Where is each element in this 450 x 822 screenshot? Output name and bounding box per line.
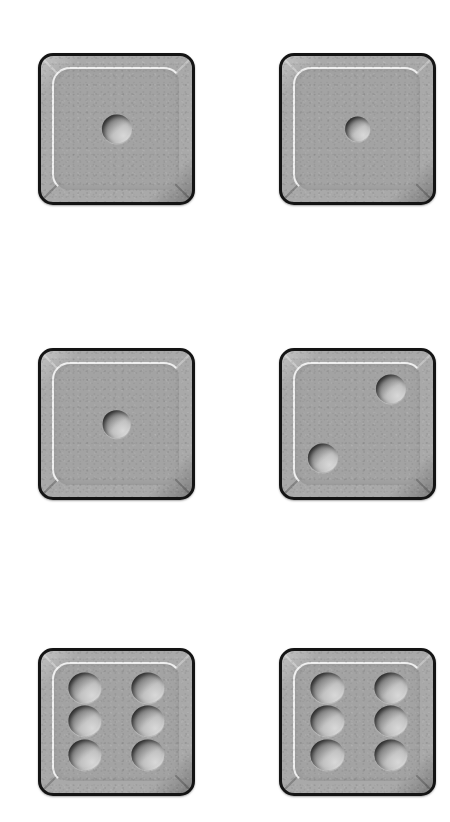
die-1[interactable] <box>38 348 195 500</box>
die-2[interactable] <box>279 348 436 500</box>
die-pip <box>345 117 371 142</box>
dice-board <box>0 0 450 822</box>
die-1[interactable] <box>38 53 195 205</box>
die-pip <box>102 410 131 438</box>
die-1[interactable] <box>279 53 436 205</box>
die-6[interactable] <box>38 648 195 796</box>
die-6[interactable] <box>279 648 436 796</box>
